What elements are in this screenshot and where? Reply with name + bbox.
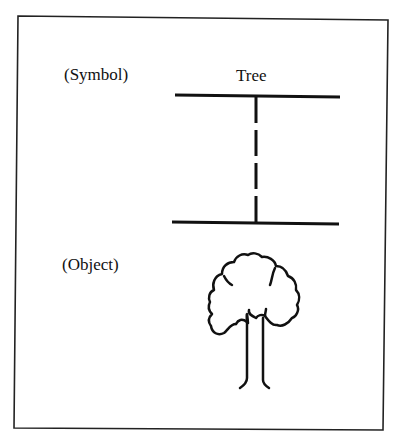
diagram-frame xyxy=(0,0,393,442)
symbol-word: Tree xyxy=(236,67,267,84)
symbol-label: (Symbol) xyxy=(64,66,128,83)
tree-icon xyxy=(209,253,299,388)
bottom-line xyxy=(172,222,339,224)
object-label: (Object) xyxy=(62,256,119,273)
top-line xyxy=(175,95,340,97)
